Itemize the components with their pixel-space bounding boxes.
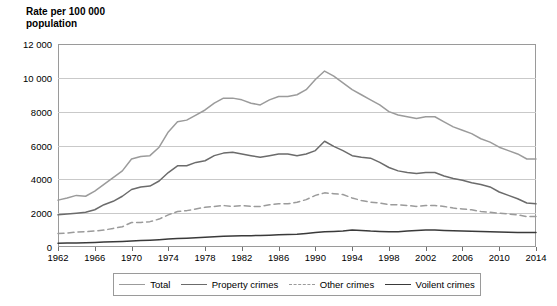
legend-swatch-total-icon — [119, 284, 145, 285]
x-axis-tick-label: 1978 — [194, 252, 215, 263]
x-axis-tick-mark — [352, 247, 353, 251]
x-axis-tick-label: 1982 — [231, 252, 252, 263]
legend-label-other-crimes: Other crimes — [320, 279, 374, 290]
series-line-voilent-crimes — [58, 230, 536, 243]
x-axis-tick-label: 1974 — [158, 252, 179, 263]
x-axis-tick-mark — [279, 247, 280, 251]
legend-item-violent-crimes: Voilent crimes — [383, 279, 477, 290]
series-lines — [58, 44, 536, 247]
x-axis-tick-mark — [315, 247, 316, 251]
x-axis-tick-label: 2010 — [489, 252, 510, 263]
legend-label-total: Total — [150, 279, 170, 290]
legend-item-total: Total — [117, 279, 172, 290]
y-axis-tick-label: 6000 — [6, 140, 52, 151]
x-axis-tick-label: 1986 — [268, 252, 289, 263]
y-axis-tick-label: 0 — [6, 242, 52, 253]
x-axis-tick-mark — [426, 247, 427, 251]
y-axis-tick-labels: 12 00010 00080006000400020000 — [0, 44, 52, 247]
x-axis-tick-mark — [58, 247, 59, 251]
y-axis-tick-label: 2000 — [6, 208, 52, 219]
series-line-property-crimes — [58, 141, 536, 215]
x-axis-tick-mark — [499, 247, 500, 251]
x-axis-tick-label: 2006 — [452, 252, 473, 263]
y-axis-title: Rate per 100 000 population — [26, 6, 105, 30]
x-axis-ticks: 1962196619701974197819821986199019941998… — [58, 247, 536, 267]
x-axis-tick-mark — [132, 247, 133, 251]
x-axis-tick-label: 1970 — [121, 252, 142, 263]
x-axis-tick-label: 1962 — [47, 252, 68, 263]
x-axis-tick-mark — [242, 247, 243, 251]
x-axis-tick-label: 2002 — [415, 252, 436, 263]
legend-swatch-violent-crimes-icon — [385, 284, 411, 285]
legend-swatch-property-crimes-icon — [181, 284, 207, 285]
x-axis-tick-label: 2014 — [525, 252, 546, 263]
y-axis-tick-label: 10 000 — [6, 72, 52, 83]
chart-legend: Total Property crimes Other crimes Voile… — [113, 273, 481, 296]
x-axis-tick-mark — [205, 247, 206, 251]
plot-area — [58, 44, 536, 247]
x-axis-tick-mark — [462, 247, 463, 251]
y-axis-tick-label: 4000 — [6, 174, 52, 185]
legend-item-property-crimes: Property crimes — [179, 279, 281, 290]
x-axis-tick-mark — [389, 247, 390, 251]
x-axis-tick-label: 1998 — [378, 252, 399, 263]
y-axis-tick-label: 8000 — [6, 106, 52, 117]
x-axis-tick-label: 1990 — [305, 252, 326, 263]
x-axis-tick-mark — [168, 247, 169, 251]
legend-label-property-crimes: Property crimes — [212, 279, 279, 290]
y-axis-tick-label: 12 000 — [6, 39, 52, 50]
x-axis-tick-label: 1966 — [84, 252, 105, 263]
legend-swatch-other-crimes-icon — [289, 284, 315, 285]
x-axis-tick-mark — [536, 247, 537, 251]
chart-root: Rate per 100 000 population 12 00010 000… — [0, 0, 557, 306]
legend-label-violent-crimes: Voilent crimes — [416, 279, 475, 290]
x-axis-tick-mark — [95, 247, 96, 251]
legend-item-other-crimes: Other crimes — [287, 279, 376, 290]
series-line-other-crimes — [58, 193, 536, 234]
x-axis-tick-label: 1994 — [342, 252, 363, 263]
